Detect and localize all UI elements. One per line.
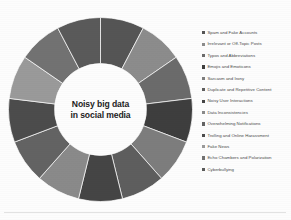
doughnut-svg: [8, 15, 193, 204]
legend-swatch-icon: [202, 111, 205, 114]
legend-item[interactable]: Spam and Fake Accounts: [202, 27, 290, 38]
legend-item-label: Data Inconsistencies: [207, 107, 247, 118]
legend-item[interactable]: Fake News: [202, 141, 290, 152]
legend-swatch-icon: [202, 145, 205, 148]
legend-item-label: Emojis and Emoticons: [207, 61, 250, 72]
legend-swatch-icon: [202, 77, 205, 80]
legend-swatch-icon: [202, 134, 205, 137]
doughnut-slice-group: [9, 18, 193, 202]
legend-item-label: Sarcasm and Irony: [207, 73, 244, 84]
legend-item[interactable]: Duplicate and Repetitive Content: [202, 84, 290, 95]
legend-item-label: Irrelevant or Off-Topic Posts: [207, 38, 261, 49]
legend-swatch-icon: [202, 168, 205, 171]
legend-item-label: Overwhelming Notifications: [207, 118, 260, 129]
legend-swatch-icon: [202, 31, 205, 34]
legend-swatch-icon: [202, 43, 205, 46]
legend-swatch-icon: [202, 100, 205, 103]
legend-item-label: Noisy User Interactions: [207, 95, 252, 106]
legend-item-label: Fake News: [207, 141, 229, 152]
chart-figure: Noisy big data in social media Spam and …: [0, 0, 291, 220]
legend-item-label: Cyberbullying: [207, 164, 234, 175]
legend-item[interactable]: Echo Chambers and Polarization: [202, 152, 290, 163]
legend-item[interactable]: Cyberbullying: [202, 164, 290, 175]
legend-item-label: Trolling and Online Harassment: [207, 130, 269, 141]
legend-swatch-icon: [202, 65, 205, 68]
legend-item[interactable]: Noisy User Interactions: [202, 95, 290, 106]
footer-divider: [4, 212, 286, 213]
legend-item-label: Typos and Abbreviations: [207, 50, 255, 61]
legend-item[interactable]: Sarcasm and Irony: [202, 73, 290, 84]
legend-swatch-icon: [202, 88, 205, 91]
legend-item[interactable]: Typos and Abbreviations: [202, 50, 290, 61]
legend-item[interactable]: Irrelevant or Off-Topic Posts: [202, 38, 290, 49]
legend-item[interactable]: Data Inconsistencies: [202, 107, 290, 118]
legend-item-label: Duplicate and Repetitive Content: [207, 84, 271, 95]
legend-item[interactable]: Trolling and Online Harassment: [202, 130, 290, 141]
legend-swatch-icon: [202, 54, 205, 57]
legend-item[interactable]: Emojis and Emoticons: [202, 61, 290, 72]
legend-item-label: Spam and Fake Accounts: [207, 27, 257, 38]
doughnut-chart[interactable]: Noisy big data in social media: [8, 15, 193, 204]
legend-swatch-icon: [202, 122, 205, 125]
legend-item[interactable]: Overwhelming Notifications: [202, 118, 290, 129]
legend-swatch-icon: [202, 156, 205, 159]
chart-legend: Spam and Fake AccountsIrrelevant or Off-…: [202, 27, 290, 175]
legend-item-label: Echo Chambers and Polarization: [207, 152, 271, 163]
